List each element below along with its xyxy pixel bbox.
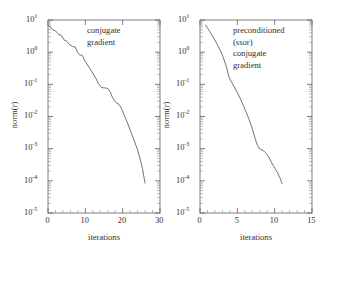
annotation-left: conjugate gradient [87,25,120,48]
y-tick-exp-left-4: -3 [32,141,37,148]
y-major-ticks-left [48,20,160,213]
annotation-right-line-2: conjugate [233,48,285,60]
y-tick-exp-left-2: -1 [32,76,37,83]
y-tick-label-right-6: 10-5 [176,209,189,217]
y-tick-label-left-3: 10-2 [24,112,37,120]
x-tick-label-left-2: 20 [118,217,126,225]
y-axis-label-left: norm(r) [9,91,19,139]
x-major-ticks-left [48,20,160,213]
annotation-right: preconditioned (ssor) conjugate gradient [233,25,285,71]
y-tick-exp-right-5: -4 [184,173,189,180]
y-tick-exp-right-6: -5 [184,205,189,212]
y-tick-label-left-0: 101 [26,16,37,24]
x-tick-label-right-2: 10 [270,217,278,225]
x-tick-label-right-0: 0 [198,217,202,225]
x-axis-label-right: iterations [200,232,312,242]
annotation-right-line-3: gradient [233,60,285,72]
y-tick-label-left-1: 100 [26,48,37,56]
y-tick-label-right-4: 10-3 [176,144,189,152]
plot-frame-left [48,20,160,213]
annotation-left-line-1: gradient [87,37,120,49]
y-tick-exp-left-1: 0 [34,44,37,51]
chart-panel-right: 101 100 10-1 10-2 10-3 10-4 10-5 0 5 10 … [167,0,337,281]
figure-container: 101 100 10-1 10-2 10-3 10-4 10-5 0 10 20… [0,0,337,281]
y-minor-ticks-left [48,21,160,203]
annotation-right-line-0: preconditioned [233,25,285,37]
y-tick-label-right-5: 10-4 [176,177,189,185]
y-tick-label-right-3: 10-2 [176,112,189,120]
y-tick-exp-left-3: -2 [32,108,37,115]
y-tick-exp-right-2: -1 [184,76,189,83]
y-tick-exp-right-0: 1 [186,12,189,19]
y-tick-exp-left-0: 1 [34,12,37,19]
y-axis-label-right: norm(r) [161,91,171,139]
y-tick-label-left-5: 10-4 [24,177,37,185]
y-tick-exp-left-5: -4 [32,173,37,180]
y-tick-label-left-2: 10-1 [24,80,37,88]
y-tick-label-left-6: 10-5 [24,209,37,217]
y-tick-label-right-2: 10-1 [176,80,189,88]
x-tick-label-left-0: 0 [46,217,50,225]
x-tick-label-right-1: 5 [235,217,239,225]
x-axis-label-left: iterations [48,232,160,242]
x-tick-label-right-3: 15 [307,217,315,225]
x-tick-label-left-3: 30 [155,217,163,225]
y-tick-label-right-1: 100 [178,48,189,56]
y-tick-exp-right-3: -2 [184,108,189,115]
x-tick-label-left-1: 10 [81,217,89,225]
data-curve-conjugate-gradient [48,25,145,183]
y-tick-exp-left-6: -5 [32,205,37,212]
chart-panel-left: 101 100 10-1 10-2 10-3 10-4 10-5 0 10 20… [0,0,170,281]
annotation-right-line-1: (ssor) [233,37,285,49]
y-tick-exp-right-4: -3 [184,141,189,148]
y-tick-label-left-4: 10-3 [24,144,37,152]
annotation-left-line-0: conjugate [87,25,120,37]
y-tick-label-right-0: 101 [178,16,189,24]
y-tick-exp-right-1: 0 [186,44,189,51]
